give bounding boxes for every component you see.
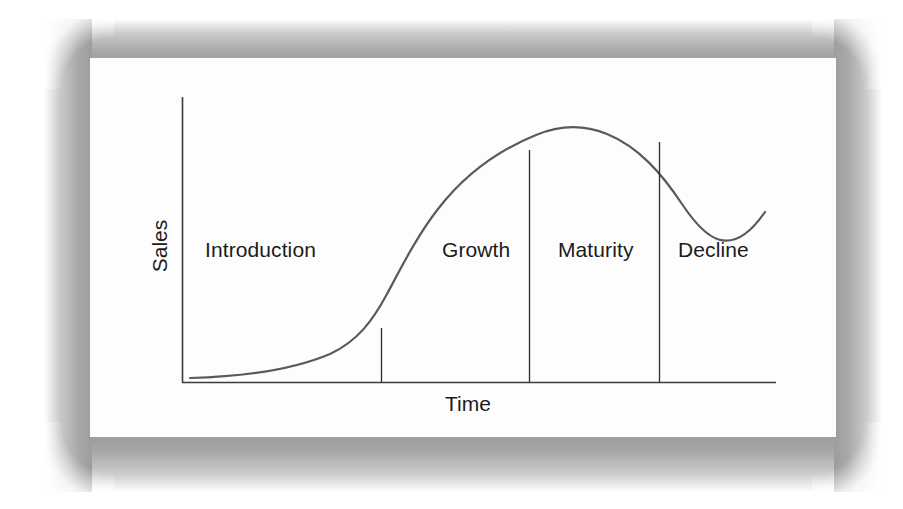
frame-edge-right [834,19,882,492]
stage-label-growth: Growth [442,238,510,262]
frame-edge-top [44,19,882,63]
product-life-cycle-chart: Sales Time Introduction Growth Maturity … [90,58,836,437]
stage-label-maturity: Maturity [558,238,633,262]
x-axis-label: Time [445,392,491,416]
frame-edge-bottom [44,436,882,492]
frame-edge-left [44,19,92,492]
y-axis-label: Sales [148,216,172,276]
stage-label-decline: Decline [678,238,749,262]
stage-label-introduction: Introduction [205,238,316,262]
